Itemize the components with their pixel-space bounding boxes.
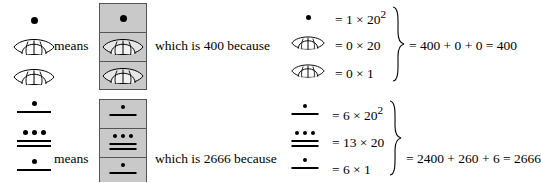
maya-shell-zero-icon <box>102 36 144 58</box>
equation-text: = 6 × 202 <box>332 105 383 122</box>
maya-shell-zero-icon <box>102 65 144 87</box>
equation-row: = 6 × 202 <box>285 102 383 124</box>
left-numeral-stack-2666 <box>6 98 62 182</box>
box-cell-place-1 <box>100 62 146 89</box>
result-text-2666: = 2400 + 260 + 6 = 2666 <box>406 152 541 166</box>
boxed-numeral-stack-2666 <box>99 99 147 182</box>
which-is-label-2666: which is 2666 because <box>155 152 277 166</box>
maya-numeral-6-icon <box>285 156 325 178</box>
equation-column-400: = 1 × 202 = 0 × 20 <box>288 0 398 91</box>
box-cell-place-1 <box>100 158 146 182</box>
maya-numeral-13-icon <box>285 129 325 151</box>
means-label-2666: means <box>54 152 89 166</box>
which-is-label-400: which is 400 because <box>155 39 270 53</box>
maya-dot-1-icon <box>120 15 127 22</box>
maya-numeral-13-icon <box>106 132 140 154</box>
maya-numeral-13-icon <box>13 126 55 156</box>
maya-numeral-6-icon <box>13 98 55 126</box>
maya-shell-zero-icon <box>288 62 328 80</box>
maya-shell-zero-icon <box>13 62 55 92</box>
box-cell-place-20 <box>100 129 146 158</box>
equation-row: = 13 × 20 <box>285 129 384 151</box>
maya-numeral-6-icon <box>13 156 55 182</box>
maya-numeral-6-icon <box>285 102 325 124</box>
equation-text: = 13 × 20 <box>332 132 384 149</box>
equation-row: = 0 × 20 <box>288 34 381 52</box>
maya-numeral-6-icon <box>106 103 140 125</box>
maya-dot-1-icon <box>31 8 38 32</box>
maya-shell-zero-icon <box>13 32 55 62</box>
means-label-400: means <box>54 39 89 53</box>
box-cell-place-400 <box>100 100 146 129</box>
equation-column-2666: = 6 × 202 = 13 × 20 = 6 × 1 <box>285 91 400 182</box>
equation-row: = 0 × 1 <box>288 62 374 80</box>
maya-numeral-6-icon <box>106 161 140 183</box>
box-cell-place-20 <box>100 33 146 62</box>
example-2666-row: means which is 2666 because <box>0 91 541 182</box>
equation-row: = 6 × 1 <box>285 156 371 178</box>
result-text-400: = 400 + 0 + 0 = 400 <box>409 39 517 53</box>
equation-text: = 0 × 20 <box>335 35 381 52</box>
example-400-row: means <box>0 0 541 91</box>
equation-row: = 1 × 202 <box>288 9 386 26</box>
equation-text: = 1 × 202 <box>335 9 386 26</box>
maya-dot-1-icon <box>288 15 328 20</box>
boxed-numeral-stack-400 <box>99 3 147 90</box>
equation-text: = 6 × 1 <box>332 159 371 176</box>
equation-text: = 0 × 1 <box>335 63 374 80</box>
maya-shell-zero-icon <box>288 34 328 52</box>
right-curly-brace-icon <box>392 6 406 82</box>
right-curly-brace-icon <box>389 100 403 176</box>
box-cell-place-400 <box>100 4 146 33</box>
